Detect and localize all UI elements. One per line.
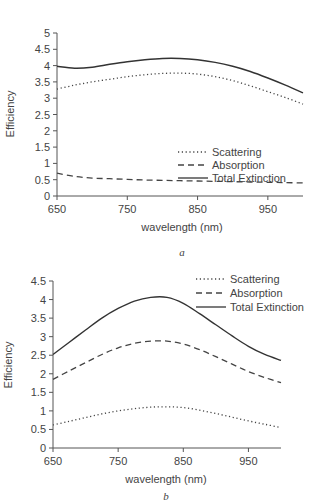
legend-label: Scattering [212, 146, 262, 158]
panel-label: b [163, 490, 169, 502]
x-tick-label: 750 [109, 455, 127, 467]
y-tick-label: 0.5 [35, 174, 50, 186]
y-tick-label: 2 [40, 368, 46, 380]
series-line-absorption [53, 341, 281, 383]
y-tick-label: 0 [44, 190, 50, 202]
chart-b: 00.511.522.533.544.5650750850950waveleng… [2, 273, 304, 502]
figure: 00.511.522.533.544.55650750850950wavelen… [0, 0, 317, 503]
y-tick-label: 3 [40, 331, 46, 343]
y-tick-label: 2.5 [35, 109, 50, 121]
y-tick-label: 1 [44, 157, 50, 169]
y-tick-label: 4.5 [31, 275, 46, 287]
y-tick-label: 1 [40, 405, 46, 417]
x-tick-label: 850 [188, 203, 206, 215]
y-tick-label: 0 [40, 442, 46, 454]
y-tick-label: 2.5 [31, 349, 46, 361]
x-tick-label: 750 [118, 203, 136, 215]
x-tick-label: 950 [259, 203, 277, 215]
legend: ScatteringAbsorptionTotal Extinction [178, 146, 286, 184]
y-tick-label: 5 [44, 27, 50, 39]
y-tick-label: 4.5 [35, 43, 50, 55]
y-tick-label: 3 [44, 92, 50, 104]
y-axis-title: Efficiency [2, 341, 14, 388]
y-axis-title: Efficiency [4, 90, 16, 137]
x-tick-label: 650 [48, 203, 66, 215]
series-line-total-extinction [57, 58, 303, 93]
y-tick-label: 2 [44, 125, 50, 137]
legend-label: Absorption [230, 287, 283, 299]
x-tick-label: 850 [174, 455, 192, 467]
x-tick-label: 950 [239, 455, 257, 467]
x-axis-title: wavelength (nm) [124, 473, 206, 485]
legend-label: Total Extinction [230, 301, 304, 313]
y-tick-label: 0.5 [31, 423, 46, 435]
legend: ScatteringAbsorptionTotal Extinction [196, 273, 304, 313]
series-line-scattering [53, 407, 281, 428]
x-axis-title: wavelength (nm) [140, 221, 222, 233]
legend-label: Absorption [212, 159, 265, 171]
x-tick-label: 650 [44, 455, 62, 467]
y-tick-label: 1.5 [35, 141, 50, 153]
y-tick-label: 3.5 [35, 76, 50, 88]
y-tick-label: 1.5 [31, 386, 46, 398]
legend-label: Scattering [230, 273, 280, 285]
y-tick-label: 4 [44, 60, 50, 72]
panel-label: a [179, 246, 185, 258]
chart-a: 00.511.522.533.544.55650750850950wavelen… [4, 27, 303, 258]
y-tick-label: 4 [40, 294, 46, 306]
y-tick-label: 3.5 [31, 312, 46, 324]
legend-label: Total Extinction [212, 172, 286, 184]
